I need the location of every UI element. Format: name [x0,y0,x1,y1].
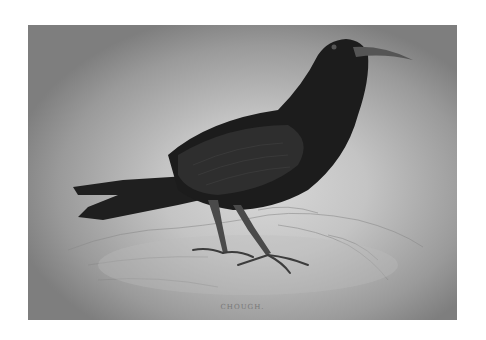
illustration-plate: CHOUGH. [28,25,457,320]
chough-illustration [28,25,457,320]
bird-eye [332,45,337,50]
caption: CHOUGH. [28,303,457,311]
rock-shade [98,235,398,295]
